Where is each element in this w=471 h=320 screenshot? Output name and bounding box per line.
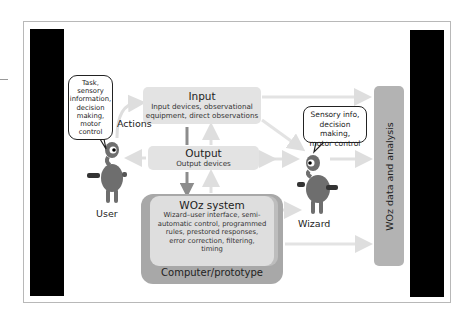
- user-character: [87, 142, 127, 203]
- user-bubble-line: information,: [69, 95, 112, 103]
- wizard-character: [297, 155, 338, 214]
- woz-system-line: timing: [150, 245, 274, 254]
- user-bubble-line: decision: [69, 104, 112, 112]
- wizard-label: Wizard: [298, 218, 330, 229]
- wizard-bubble-line: motor control: [304, 139, 366, 149]
- woz-system-line: rules, prestored responses,: [150, 228, 274, 237]
- woz-system-line: error correction, filtering,: [150, 237, 274, 246]
- user-label: User: [96, 208, 118, 219]
- woz-system-line: Wizard–user interface, semi-: [150, 211, 274, 220]
- user-bubble-line: sensory: [69, 87, 112, 95]
- wizard-speech-bubble: Sensory info, decision making, motor con…: [303, 106, 367, 143]
- woz-system-box: WOz system Wizard–user interface, semi- …: [150, 196, 274, 266]
- input-box: Input Input devices, observational equip…: [143, 87, 261, 124]
- user-bubble-line: Task,: [69, 79, 112, 87]
- user-bubble-tail: [100, 139, 106, 149]
- input-description-line1: Input devices, observational: [143, 102, 261, 111]
- woz-system-title: WOz system: [150, 199, 274, 211]
- woz-data-analysis-label: WOz data and analysis: [384, 122, 395, 231]
- wizard-bubble-line: Sensory info,: [304, 110, 366, 120]
- user-bubble-line: making,: [69, 112, 112, 120]
- woz-data-analysis-label-wrap: WOz data and analysis: [374, 86, 404, 266]
- wizard-bubble-line: decision making,: [304, 120, 366, 139]
- input-to-wizard-arrow: [262, 120, 298, 146]
- user-bubble-line: control: [69, 128, 112, 136]
- output-box: Output Output devices: [148, 146, 259, 170]
- input-description-line2: equipment, direct observations: [143, 111, 261, 120]
- output-description: Output devices: [148, 159, 259, 168]
- user-bubble-line: motor: [69, 120, 112, 128]
- input-title: Input: [143, 90, 261, 102]
- actions-label: Actions: [117, 118, 152, 129]
- computer-prototype-label: Computer/prototype: [141, 267, 283, 278]
- output-title: Output: [148, 147, 259, 159]
- woz-system-line: automatic control, programmed: [150, 220, 274, 229]
- user-speech-bubble: Task, sensory information, decision maki…: [68, 75, 113, 140]
